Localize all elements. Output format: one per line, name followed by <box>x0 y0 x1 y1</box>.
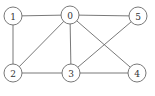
node-label: 0 <box>67 11 73 21</box>
node-4: 4 <box>128 64 146 82</box>
node-label: 1 <box>10 12 16 22</box>
node-label: 2 <box>10 69 16 79</box>
node-2: 2 <box>4 64 22 82</box>
node-label: 4 <box>134 69 140 79</box>
node-5: 5 <box>129 7 147 25</box>
edge-0-5 <box>70 15 138 16</box>
node-1: 1 <box>4 7 22 25</box>
node-3: 3 <box>62 64 80 82</box>
node-label: 3 <box>68 69 74 79</box>
node-label: 5 <box>135 12 141 22</box>
edges-group <box>13 15 138 73</box>
node-0: 0 <box>61 6 79 24</box>
edge-0-2 <box>13 15 70 73</box>
graph-diagram: 012345 <box>0 0 155 96</box>
nodes-group: 012345 <box>4 6 147 82</box>
edge-0-4 <box>70 15 137 73</box>
